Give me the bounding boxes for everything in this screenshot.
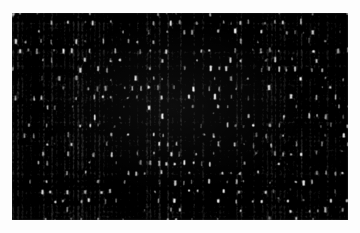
image-canvas — [0, 0, 360, 233]
textile-photograph — [12, 13, 348, 220]
weave-texture-layer — [12, 13, 348, 220]
